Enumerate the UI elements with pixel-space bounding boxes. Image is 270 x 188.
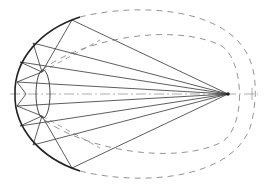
optical-axis [10,88,258,100]
focus-dot [226,92,230,96]
reflected-ray-line [33,43,42,72]
reflected-rays [17,20,72,168]
ray-line [72,94,228,168]
dashed-guide [42,40,100,72]
diagram-canvas [0,0,270,188]
dashed-guide [42,116,100,148]
ray-line [17,94,228,106]
ray-line [72,20,228,94]
ray-line [17,82,228,94]
reflected-ray-line [17,94,26,106]
focal-point [226,92,230,96]
reflected-ray-line [33,116,42,145]
reflected-ray-line [17,82,26,94]
reflector-ray-diagram [0,0,270,188]
